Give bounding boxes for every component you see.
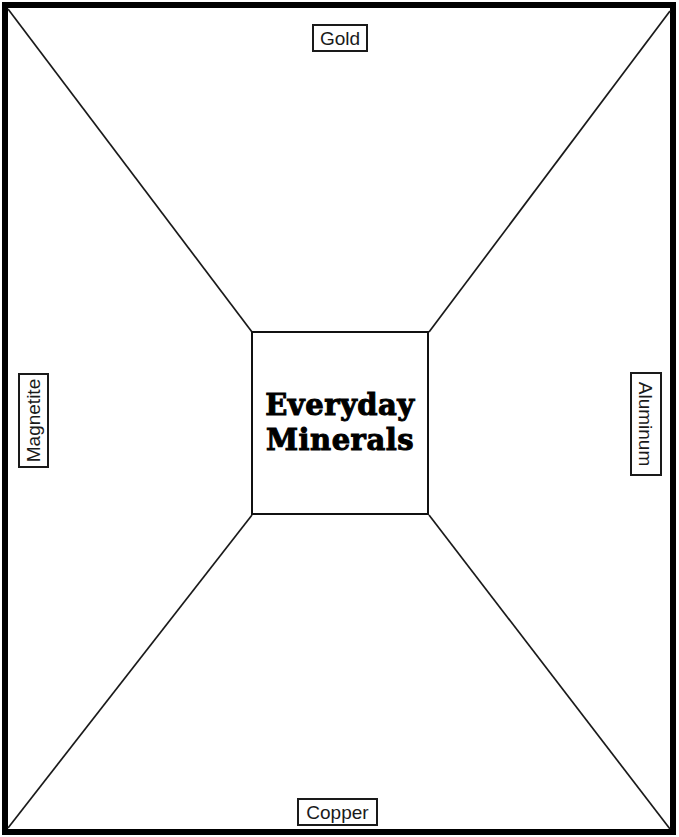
label-magnetite: Magnetite (18, 373, 49, 468)
diagonal-bottom-right-line (429, 515, 670, 829)
label-copper: Copper (297, 798, 378, 826)
label-magnetite-text: Magnetite (24, 379, 43, 462)
label-aluminum: Aluminum (630, 372, 662, 476)
diagonal-top-right-line (429, 11, 670, 332)
label-gold-text: Gold (320, 29, 360, 48)
center-topic-box: Everyday Minerals (251, 331, 429, 515)
diagonal-top-left-line (8, 9, 252, 332)
center-topic-title: Everyday Minerals (265, 388, 414, 458)
label-gold: Gold (312, 24, 368, 52)
center-topic-title-line1: Everyday (265, 388, 414, 423)
center-topic-title-line2: Minerals (265, 423, 414, 458)
label-aluminum-text: Aluminum (637, 382, 656, 466)
everyday-minerals-diagram: Everyday Minerals Gold Magnetite Aluminu… (0, 0, 679, 837)
label-copper-text: Copper (306, 803, 368, 822)
diagonal-bottom-left-line (8, 515, 252, 828)
